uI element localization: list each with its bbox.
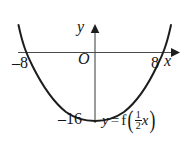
graph-canvas — [0, 0, 189, 155]
y-axis-arrowhead — [91, 24, 100, 33]
equation-fraction: 1 2 — [135, 110, 142, 131]
equation-function-name: f — [121, 113, 126, 128]
fraction-numerator: 1 — [135, 110, 142, 120]
y-axis-label: y — [77, 19, 84, 35]
fraction-denominator: 2 — [135, 121, 142, 131]
math-figure: y O x –8 8 –16 y = f ( 1 2 x ) — [0, 0, 189, 155]
equation-lhs: y — [102, 113, 109, 128]
equation-open-paren: ( — [128, 110, 134, 131]
x-axis-label: x — [164, 53, 171, 69]
right-intercept-label: 8 — [151, 55, 159, 71]
equation-variable: x — [142, 113, 149, 128]
equation-operator: = — [111, 113, 119, 128]
left-intercept-label: –8 — [12, 55, 28, 71]
minimum-value-label: –16 — [58, 111, 82, 127]
origin-label: O — [78, 51, 90, 67]
equation-close-paren: ) — [150, 110, 156, 131]
x-axis-arrowhead — [171, 48, 180, 57]
curve-equation-label: y = f ( 1 2 x ) — [102, 110, 157, 131]
